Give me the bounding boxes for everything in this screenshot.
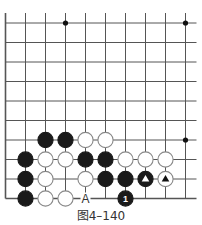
black-stone	[138, 171, 153, 186]
board-grid	[6, 13, 197, 199]
black-stone	[58, 132, 73, 147]
white-stone	[78, 132, 93, 147]
white-stone	[158, 171, 173, 186]
point-label: A	[81, 192, 89, 206]
black-stone	[18, 191, 33, 206]
white-stone	[98, 132, 113, 147]
black-stone	[98, 152, 113, 167]
black-stone	[98, 171, 113, 186]
white-stone	[138, 152, 153, 167]
white-stone	[38, 171, 53, 186]
black-stone	[38, 132, 53, 147]
white-stone	[118, 152, 133, 167]
white-stone	[78, 171, 93, 186]
white-stone	[158, 152, 173, 167]
black-stone: 1	[118, 191, 133, 206]
figure-caption: 图4–140	[0, 206, 202, 223]
white-stone	[38, 191, 53, 206]
move-number: 1	[123, 194, 128, 204]
stones: 1	[18, 132, 173, 206]
star-point-icon	[183, 20, 188, 25]
white-stone	[38, 152, 53, 167]
star-point-icon	[183, 137, 188, 142]
black-stone	[78, 152, 93, 167]
black-stone	[18, 171, 33, 186]
black-stone	[18, 152, 33, 167]
white-stone	[58, 152, 73, 167]
point-labels: A	[81, 192, 91, 206]
black-stone	[118, 171, 133, 186]
white-stone	[58, 191, 73, 206]
go-board: 1 A	[0, 0, 202, 210]
star-point-icon	[63, 20, 68, 25]
